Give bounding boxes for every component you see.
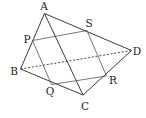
section-edge-QR xyxy=(52,76,107,85)
vertex-labels: A B C D P Q R S xyxy=(10,0,141,112)
label-R: R xyxy=(109,74,118,86)
section-edge-RS xyxy=(87,31,107,77)
label-D: D xyxy=(133,45,141,57)
label-Q: Q xyxy=(46,85,55,97)
label-A: A xyxy=(39,0,48,12)
label-P: P xyxy=(23,33,30,45)
edge-CD xyxy=(83,51,132,96)
label-C: C xyxy=(81,100,89,112)
label-B: B xyxy=(10,65,18,77)
cross-section-quadrilateral xyxy=(33,31,107,85)
label-S: S xyxy=(85,17,92,29)
tetrahedron-diagram: A B C D P Q R S xyxy=(0,0,146,118)
section-edge-SP xyxy=(33,31,88,41)
